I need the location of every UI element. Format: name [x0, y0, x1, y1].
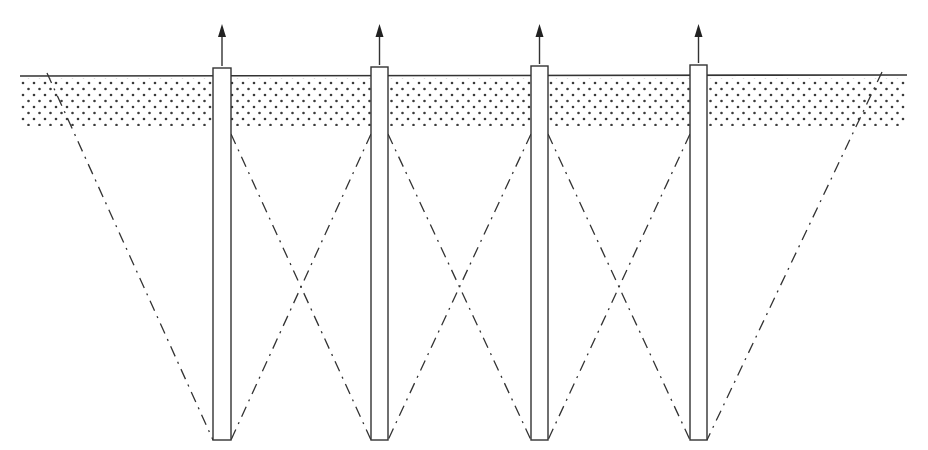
- influence-line-outer-left: [47, 73, 213, 440]
- influence-line-outer-right: [707, 72, 882, 440]
- pile-shaft: [371, 67, 388, 440]
- arrow-up-icon-head: [218, 24, 226, 37]
- pile-shaft: [531, 66, 548, 440]
- diagram-canvas: [0, 0, 928, 450]
- pile-3: [531, 24, 548, 440]
- arrow-up-icon-head: [376, 24, 384, 37]
- dotted-soil-layer: [20, 78, 907, 126]
- pile-shaft: [690, 65, 707, 440]
- pile-1: [213, 24, 231, 440]
- pile-4: [690, 24, 707, 440]
- ground-surface-line: [20, 75, 907, 76]
- pile-group-diagram: [0, 0, 928, 450]
- arrow-up-icon-head: [536, 24, 544, 37]
- soil-surface-band: [20, 75, 907, 126]
- arrow-up-icon-head: [695, 24, 703, 37]
- pile-2: [371, 24, 388, 440]
- pile-shaft: [213, 68, 231, 440]
- influence-lines: [47, 72, 882, 440]
